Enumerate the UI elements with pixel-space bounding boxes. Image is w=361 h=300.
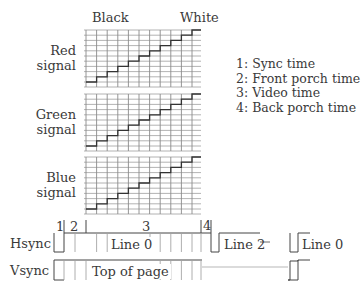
signal-graphics [0, 0, 361, 300]
hsync-line-2: Line 2 [224, 237, 265, 252]
hsync-label: Hsync [10, 236, 51, 251]
marker-2: 2 [70, 219, 78, 234]
marker-4: 4 [203, 218, 211, 233]
green-signal-grid [84, 94, 201, 151]
marker-3: 3 [142, 219, 150, 234]
blue-signal-grid [84, 157, 201, 214]
hsync-line-0: Line 0 [110, 237, 153, 252]
marker-1: 1 [56, 219, 64, 234]
vsync-top-of-page: Top of page [90, 264, 171, 279]
red-signal-grid [84, 30, 201, 87]
hsync-line-0-next: Line 0 [302, 237, 343, 252]
vsync-label: Vsync [10, 263, 49, 278]
